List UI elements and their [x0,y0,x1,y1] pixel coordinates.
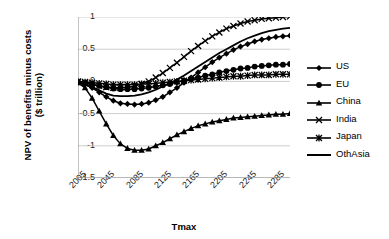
data-point-circle [224,68,230,74]
legend-label: OthAsia [336,148,370,159]
data-point-cross [216,29,222,35]
series-line [78,17,290,88]
legend-label: US [336,60,349,71]
data-point-diamond [139,101,145,107]
legend-label: Japan [336,130,362,141]
data-point-diamond [252,38,258,44]
data-point-circle [259,63,265,69]
data-point-cross [167,65,173,71]
series-china [78,79,290,152]
data-point-circle [231,67,237,73]
legend-label: EU [336,78,349,89]
series-othasia [78,28,290,96]
y-axis-title-line2: ($ trillion) [33,73,44,117]
data-point-cross [174,60,180,66]
y-axis-title-line1: NPV of benefits minus costs [22,30,33,161]
data-point-cross [287,17,290,19]
data-point-diamond [124,101,130,107]
data-point-cross [202,38,208,44]
data-point-circle [273,62,279,68]
legend-marker-triangle-icon [306,95,332,107]
data-point-circle [245,65,251,71]
data-point-diamond [280,33,286,39]
data-point-triangle [96,108,102,114]
data-point-circle [280,62,286,68]
data-point-diamond [259,36,265,42]
legend-marker-cross-icon [306,112,332,124]
chart-figure: NPV of benefits minus costs ($ trillion)… [0,0,389,239]
x-axis-title: Tmax [78,221,290,232]
data-point-diamond [237,44,243,50]
data-point-circle [316,82,322,88]
legend-item-china[interactable]: China [306,92,388,110]
data-point-cross [160,70,166,76]
data-point-diamond [245,41,251,47]
legend-label: China [336,95,361,106]
chart-legend: USEUChinaIndiaJapanOthAsia [306,57,388,162]
data-point-cross [209,33,215,39]
series-us [78,33,290,108]
data-point-circle [266,62,272,68]
data-point-circle [287,61,290,67]
legend-item-othasia[interactable]: OthAsia [306,145,388,163]
legend-marker-asterisk-icon [306,130,332,142]
data-point-diamond [273,34,279,40]
legend-item-eu[interactable]: EU [306,75,388,93]
legend-marker-line-icon [306,147,332,159]
series-line [78,28,290,96]
data-point-diamond [287,33,290,39]
plot-area [78,17,290,178]
data-point-cross [195,43,201,49]
legend-item-india[interactable]: India [306,110,388,128]
legend-marker-diamond-icon [306,60,332,72]
data-point-diamond [230,47,236,53]
data-point-triangle [103,121,109,127]
data-point-cross [181,54,187,60]
data-point-diamond [117,100,123,106]
legend-label: India [336,113,357,124]
legend-item-us[interactable]: US [306,57,388,75]
data-point-circle [252,64,258,70]
data-point-diamond [223,51,229,57]
series-line [78,83,290,151]
data-point-diamond [316,65,322,71]
data-point-diamond [266,35,272,41]
data-point-circle [238,66,244,72]
data-point-diamond [153,97,159,103]
data-point-diamond [131,101,137,107]
data-point-diamond [110,98,116,104]
y-axis-title: NPV of benefits minus costs ($ trillion) [22,10,44,180]
legend-marker-circle-icon [306,77,332,89]
data-point-cross [153,75,159,81]
legend-item-japan[interactable]: Japan [306,127,388,145]
data-point-diamond [146,100,152,106]
